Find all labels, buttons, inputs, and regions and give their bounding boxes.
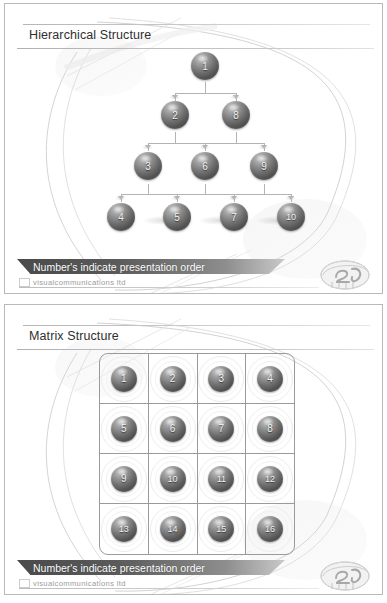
tree-node[interactable]: 2 <box>161 101 189 129</box>
tree-node-label: 1 <box>202 61 208 72</box>
matrix-node-label: 3 <box>219 373 225 384</box>
matrix-node[interactable]: 16 <box>257 516 283 542</box>
matrix-node-label: 15 <box>216 524 226 534</box>
tree-node-label: 2 <box>172 110 178 121</box>
tree-node[interactable]: 3 <box>134 152 162 180</box>
matrix-node-label: 5 <box>121 423 127 434</box>
brand-label: visualcommunications ltd <box>33 579 126 589</box>
slide-matrix[interactable]: Matrix Structure 1 2 <box>4 304 383 595</box>
matrix-node[interactable]: 6 <box>160 416 186 442</box>
matrix-node-label: 10 <box>168 474 178 484</box>
matrix-node-label: 8 <box>267 423 273 434</box>
slide-hierarchical[interactable]: Hierarchical Structure <box>4 3 383 294</box>
title-rule-top <box>23 325 370 326</box>
tree-node-label: 9 <box>261 161 267 172</box>
tree-node-label: 7 <box>231 212 237 223</box>
matrix-node[interactable]: 2 <box>160 366 186 392</box>
matrix-node[interactable]: 14 <box>160 516 186 542</box>
matrix-node-label: 11 <box>217 474 226 484</box>
matrix-node-label: 16 <box>265 524 275 534</box>
footer-note: Number's indicate presentation order <box>33 561 205 575</box>
matrix-cell[interactable]: 16 <box>246 504 294 554</box>
slide-title: Matrix Structure <box>29 329 119 343</box>
matrix-node[interactable]: 9 <box>111 466 137 492</box>
matrix-cell[interactable]: 1 <box>100 354 149 403</box>
tree-node[interactable]: 7 <box>220 203 248 231</box>
tree-node-label: 8 <box>233 110 239 121</box>
footer-marker <box>19 278 30 287</box>
v2-pebble-logo-icon <box>316 557 374 593</box>
matrix-cell[interactable]: 10 <box>149 454 198 503</box>
matrix-node[interactable]: 1 <box>111 366 137 392</box>
matrix-node[interactable]: 4 <box>257 366 283 392</box>
tree-node[interactable]: 4 <box>107 203 135 231</box>
matrix-node[interactable]: 13 <box>111 516 137 542</box>
matrix-cell[interactable]: 9 <box>100 454 149 503</box>
slide-deck: Hierarchical Structure <box>0 0 387 603</box>
brand-label: visualcommunications ltd <box>33 278 126 288</box>
tree-node[interactable]: 6 <box>191 152 219 180</box>
matrix-cell[interactable]: 15 <box>198 504 247 554</box>
matrix-cell[interactable]: 4 <box>246 354 294 403</box>
tree-node-label: 6 <box>202 161 208 172</box>
matrix-node[interactable]: 5 <box>111 416 137 442</box>
matrix-cell[interactable]: 11 <box>198 454 247 503</box>
title-rule-bottom <box>17 48 374 49</box>
matrix-node[interactable]: 10 <box>160 466 186 492</box>
tree-node[interactable]: 9 <box>250 152 278 180</box>
matrix-node-label: 7 <box>219 423 225 434</box>
matrix-cell[interactable]: 5 <box>100 404 149 453</box>
title-rule-bottom <box>17 349 374 350</box>
matrix-node-label: 2 <box>170 373 176 384</box>
footer-marker <box>19 579 30 588</box>
tree-node[interactable]: 1 <box>191 52 219 80</box>
matrix-row: 1 2 3 4 <box>100 354 294 404</box>
slide-title: Hierarchical Structure <box>29 28 151 42</box>
title-rule-top <box>23 24 370 25</box>
matrix-node[interactable]: 8 <box>257 416 283 442</box>
matrix-node[interactable]: 7 <box>208 416 234 442</box>
v2-pebble-logo-icon <box>316 256 374 292</box>
matrix-row: 5 6 7 8 <box>100 404 294 454</box>
footer-note: Number's indicate presentation order <box>33 260 205 274</box>
tree-node-label: 10 <box>286 212 296 222</box>
matrix-node[interactable]: 12 <box>257 466 283 492</box>
matrix-node[interactable]: 15 <box>208 516 234 542</box>
matrix-grid: 1 2 3 4 <box>99 353 295 555</box>
matrix-node-label: 1 <box>121 373 127 384</box>
tree-node[interactable]: 8 <box>222 101 250 129</box>
tree-node[interactable]: 10 <box>277 203 305 231</box>
matrix-cell[interactable]: 8 <box>246 404 294 453</box>
matrix-node-label: 9 <box>121 473 127 484</box>
matrix-cell[interactable]: 12 <box>246 454 294 503</box>
matrix-cell[interactable]: 2 <box>149 354 198 403</box>
matrix-node-label: 6 <box>170 423 176 434</box>
matrix-node-label: 14 <box>168 524 178 534</box>
tree-node-label: 4 <box>118 212 124 223</box>
tree-node[interactable]: 5 <box>163 203 191 231</box>
tree-node-label: 5 <box>174 212 180 223</box>
matrix-row: 9 10 11 12 <box>100 454 294 504</box>
matrix-cell[interactable]: 14 <box>149 504 198 554</box>
matrix-row: 13 14 15 16 <box>100 504 294 554</box>
matrix-node[interactable]: 11 <box>208 466 234 492</box>
matrix-node[interactable]: 3 <box>208 366 234 392</box>
matrix-cell[interactable]: 13 <box>100 504 149 554</box>
matrix-cell[interactable]: 3 <box>198 354 247 403</box>
matrix-node-label: 12 <box>265 474 275 484</box>
matrix-cell[interactable]: 7 <box>198 404 247 453</box>
matrix-node-label: 13 <box>119 524 129 534</box>
tree-node-label: 3 <box>145 161 151 172</box>
matrix-cell[interactable]: 6 <box>149 404 198 453</box>
matrix-node-label: 4 <box>267 373 273 384</box>
